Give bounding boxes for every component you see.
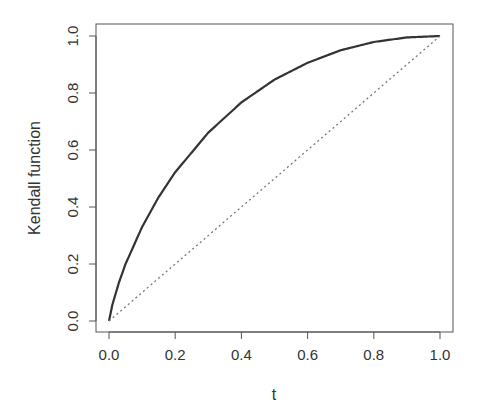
x-axis-label: t [272,386,277,403]
y-tick-label: 0.0 [64,311,81,332]
y-tick-label: 0.6 [64,140,81,161]
series-layer [109,36,440,321]
x-tick-label: 0.6 [297,346,318,363]
y-axis-label: Kendall function [26,121,43,235]
x-axis: 0.00.20.40.60.81.0 [99,332,451,363]
y-tick-label: 0.2 [64,254,81,275]
kendall-function-chart: 0.00.20.40.60.81.0 0.00.20.40.60.81.0 t … [0,0,481,411]
x-tick-label: 0.4 [231,346,252,363]
y-tick-label: 1.0 [64,26,81,47]
y-axis: 0.00.20.40.60.81.0 [64,26,96,332]
x-tick-label: 0.8 [363,346,384,363]
plot-frame [96,24,453,332]
x-tick-label: 0.2 [165,346,186,363]
x-tick-label: 0.0 [99,346,120,363]
x-tick-label: 1.0 [430,346,451,363]
y-tick-label: 0.8 [64,83,81,104]
y-tick-label: 0.4 [64,197,81,218]
